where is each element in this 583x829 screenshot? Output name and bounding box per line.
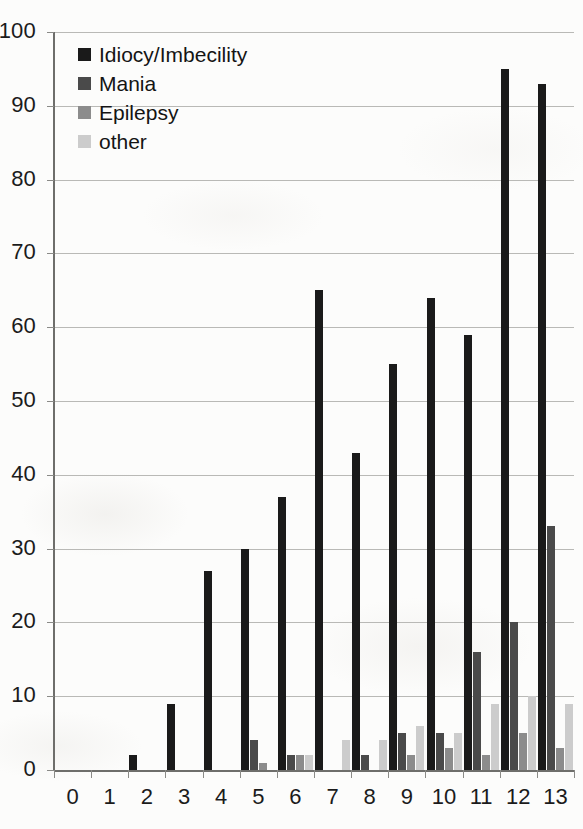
x-tick-mark <box>240 770 241 778</box>
y-tick-mark <box>47 32 54 33</box>
x-tick-mark <box>463 770 464 778</box>
y-tick-mark <box>47 180 54 181</box>
y-tick-mark <box>47 549 54 550</box>
bar <box>501 69 509 770</box>
bar <box>315 290 323 770</box>
x-tick-label: 3 <box>164 784 204 810</box>
y-tick-label: 30 <box>0 535 36 561</box>
bar-group <box>427 32 462 770</box>
x-tick-mark <box>203 770 204 778</box>
bar <box>416 726 424 770</box>
bar-group <box>538 32 573 770</box>
legend-item-label: Epilepsy <box>99 102 178 123</box>
bar <box>473 652 481 770</box>
x-tick-label: 4 <box>201 784 241 810</box>
bar <box>342 740 350 770</box>
bar <box>167 704 175 770</box>
x-tick-mark <box>425 770 426 778</box>
x-tick-mark <box>351 770 352 778</box>
bar <box>305 755 313 770</box>
y-tick-mark <box>47 622 54 623</box>
bar <box>287 755 295 770</box>
bar <box>510 622 518 770</box>
bar <box>352 453 360 770</box>
legend-item-label: Idiocy/Imbecility <box>99 44 247 65</box>
bar <box>565 704 573 770</box>
legend-item-label: Mania <box>99 73 156 94</box>
y-tick-mark <box>47 401 54 402</box>
x-tick-mark <box>574 770 575 778</box>
bar-group <box>352 32 387 770</box>
x-tick-label: 8 <box>350 784 390 810</box>
x-tick-mark <box>277 770 278 778</box>
bar <box>445 748 453 770</box>
bar <box>296 755 304 770</box>
chart-legend: Idiocy/ImbecilityManiaEpilepsyother <box>78 40 288 156</box>
x-tick-mark <box>537 770 538 778</box>
bar-group <box>315 32 350 770</box>
bar <box>491 704 499 770</box>
x-tick-label: 5 <box>238 784 278 810</box>
y-tick-label: 60 <box>0 313 36 339</box>
legend-item[interactable]: Epilepsy <box>78 98 288 127</box>
y-tick-mark <box>47 253 54 254</box>
x-tick-label: 13 <box>535 784 575 810</box>
y-tick-mark <box>47 770 54 771</box>
legend-item[interactable]: Mania <box>78 69 288 98</box>
y-tick-mark <box>47 696 54 697</box>
y-tick-label: 0 <box>0 756 36 782</box>
bar <box>398 733 406 770</box>
bar <box>436 733 444 770</box>
x-tick-label: 11 <box>461 784 501 810</box>
y-tick-label: 70 <box>0 239 36 265</box>
y-tick-mark <box>47 106 54 107</box>
x-tick-mark <box>388 770 389 778</box>
legend-item[interactable]: Idiocy/Imbecility <box>78 40 288 69</box>
x-tick-mark <box>128 770 129 778</box>
x-tick-label: 1 <box>90 784 130 810</box>
legend-swatch-icon <box>78 106 91 119</box>
bar <box>464 335 472 770</box>
y-tick-label: 80 <box>0 166 36 192</box>
y-tick-label: 40 <box>0 461 36 487</box>
bar <box>259 763 267 770</box>
chart-page: 0102030405060708090100 01234567891011121… <box>0 0 583 829</box>
y-tick-mark <box>47 327 54 328</box>
y-tick-label: 100 <box>0 18 36 44</box>
bar <box>129 755 137 770</box>
x-tick-label: 10 <box>424 784 464 810</box>
bar-group <box>389 32 424 770</box>
bar <box>454 733 462 770</box>
x-tick-label: 6 <box>275 784 315 810</box>
y-tick-label: 90 <box>0 92 36 118</box>
bar <box>519 733 527 770</box>
x-tick-mark <box>54 770 55 778</box>
bar <box>538 84 546 770</box>
bar <box>482 755 490 770</box>
x-tick-label: 0 <box>53 784 93 810</box>
x-tick-mark <box>165 770 166 778</box>
bar-group <box>501 32 536 770</box>
bar <box>528 696 536 770</box>
x-tick-mark <box>91 770 92 778</box>
y-tick-label: 20 <box>0 608 36 634</box>
x-tick-label: 2 <box>127 784 167 810</box>
bar <box>427 298 435 770</box>
bar <box>278 497 286 770</box>
bar <box>407 755 415 770</box>
y-tick-mark <box>47 475 54 476</box>
legend-item-label: other <box>99 131 147 152</box>
x-tick-mark <box>314 770 315 778</box>
legend-item[interactable]: other <box>78 127 288 156</box>
bar-group <box>464 32 499 770</box>
y-tick-label: 50 <box>0 387 36 413</box>
bar <box>204 571 212 770</box>
y-tick-label: 10 <box>0 682 36 708</box>
bar <box>379 740 387 770</box>
bar <box>547 526 555 770</box>
x-tick-mark <box>500 770 501 778</box>
bar <box>389 364 397 770</box>
bar <box>556 748 564 770</box>
legend-swatch-icon <box>78 48 91 61</box>
legend-swatch-icon <box>78 77 91 90</box>
